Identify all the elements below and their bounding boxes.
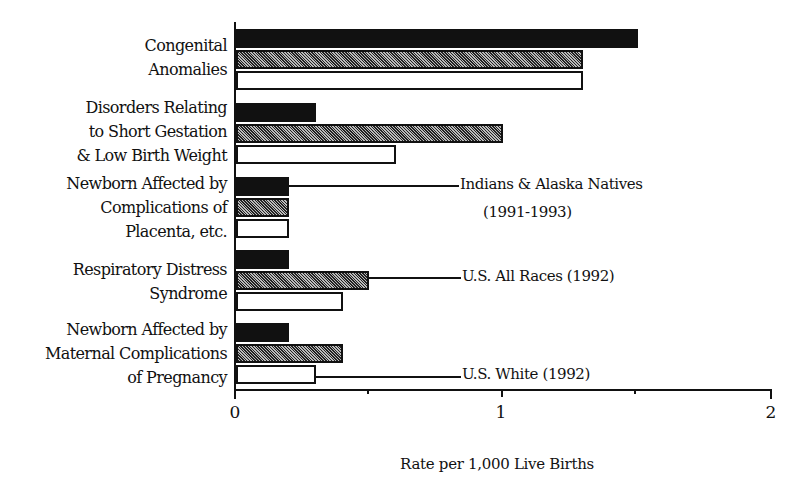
y-axis-line [234, 22, 236, 391]
bar-all-races-short-gestation [236, 124, 503, 143]
label-line: Complications of [66, 196, 227, 220]
category-label-congenital-anomalies: Congenital Anomalies [145, 34, 227, 82]
x-tick-1 [501, 389, 503, 397]
bar-all-races-maternal [236, 344, 343, 363]
legend-label-indians: Indians & Alaska Natives [460, 175, 643, 193]
label-line: Newborn Affected by [45, 318, 227, 342]
bar-white-maternal [236, 365, 316, 384]
x-tick-label-0: 0 [230, 402, 241, 422]
x-tick-0.5 [367, 389, 369, 394]
bar-white-short-gestation [236, 145, 396, 164]
x-axis-title: Rate per 1,000 Live Births [400, 455, 594, 473]
label-line: Anomalies [145, 58, 227, 82]
bar-white-respiratory [236, 292, 343, 311]
label-line: of Pregnancy [45, 366, 227, 390]
leader-line-all-races [369, 277, 461, 279]
label-line: Placenta, etc. [66, 220, 227, 244]
x-tick-label-1: 1 [496, 402, 507, 422]
bar-indians-maternal [236, 323, 289, 342]
legend-label-all-races: U.S. All Races (1992) [462, 267, 614, 285]
label-line: Disorders Relating [76, 96, 227, 120]
label-line: Respiratory Distress [73, 258, 227, 282]
x-tick-label-2: 2 [766, 402, 777, 422]
x-axis-line [234, 389, 772, 391]
legend-label-white: U.S. White (1992) [462, 365, 590, 383]
label-line: Maternal Complications [45, 342, 227, 366]
category-label-maternal-complications: Newborn Affected by Maternal Complicatio… [45, 318, 227, 390]
label-line: Newborn Affected by [66, 172, 227, 196]
horizontal-bar-chart: Congenital Anomalies Disorders Relating … [0, 0, 810, 498]
label-line: & Low Birth Weight [76, 144, 227, 168]
bar-white-placenta [236, 219, 289, 238]
bar-all-races-congenital [236, 50, 583, 69]
bar-indians-placenta [236, 177, 289, 196]
bar-indians-short-gestation [236, 103, 316, 122]
bar-all-races-respiratory [236, 271, 369, 290]
leader-line-indians [289, 185, 459, 187]
legend-label-indians-years: (1991-1993) [483, 203, 572, 221]
x-tick-0 [234, 389, 236, 399]
category-label-short-gestation: Disorders Relating to Short Gestation & … [76, 96, 227, 168]
label-line: to Short Gestation [76, 120, 227, 144]
label-line: Congenital [145, 34, 227, 58]
bar-white-congenital [236, 71, 583, 90]
category-label-placenta: Newborn Affected by Complications of Pla… [66, 172, 227, 244]
bar-indians-congenital [236, 29, 638, 48]
label-line: Syndrome [73, 282, 227, 306]
leader-line-white [316, 376, 461, 378]
x-tick-1.5 [634, 389, 636, 394]
category-label-respiratory-distress: Respiratory Distress Syndrome [73, 258, 227, 306]
bar-all-races-placenta [236, 198, 289, 217]
bar-indians-respiratory [236, 250, 289, 269]
x-tick-2 [770, 389, 772, 399]
